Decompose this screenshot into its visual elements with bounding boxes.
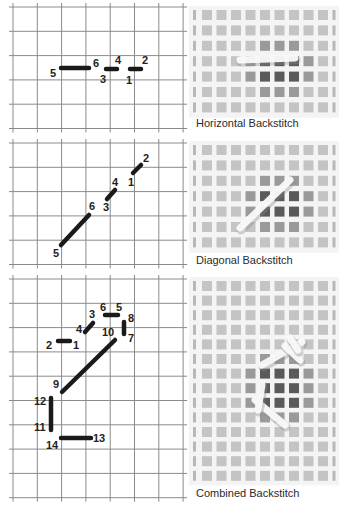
stitch-number: 13 (93, 432, 105, 444)
panel-combined: 2143658107912111413 (9, 275, 339, 502)
panel-caption: Combined Backstitch (196, 487, 299, 499)
stitch-number: 2 (143, 152, 149, 164)
stitch-number: 5 (53, 247, 59, 259)
stitch-lines (61, 68, 141, 69)
stitch-number: 1 (126, 74, 132, 86)
stitch-number: 6 (89, 200, 95, 212)
canvas-swatch-photo (189, 141, 339, 253)
stitch-number: 5 (50, 67, 56, 79)
stitch-number: 2 (46, 339, 52, 351)
stitch-number: 4 (112, 176, 119, 188)
stitch-number: 3 (103, 201, 109, 213)
stitch-number: 4 (115, 54, 122, 66)
panel-caption: Diagonal Backstitch (196, 254, 293, 266)
stitch-number: 8 (128, 312, 134, 324)
stitch-number: 7 (128, 332, 134, 344)
stitch-number: 10 (102, 326, 114, 338)
canvas-swatch-photo (189, 6, 339, 118)
panel-horizontal: 563412 (9, 3, 339, 133)
yarn-thread (240, 58, 296, 62)
stitch-number: 5 (116, 301, 122, 313)
canvas-swatch-photo (189, 277, 339, 485)
panel-caption: Horizontal Backstitch (196, 117, 299, 129)
stitch-number: 11 (34, 421, 46, 433)
stitch-grid (9, 275, 187, 502)
stitch-grid (9, 139, 187, 269)
stitch-number: 6 (100, 301, 106, 313)
diagram-canvas: 5634122143652143658107912111413 (0, 0, 354, 510)
panel-diagonal: 214365 (9, 139, 339, 269)
stitch-number: 3 (89, 308, 95, 320)
stitch-number: 2 (142, 54, 148, 66)
stitch-number: 3 (100, 73, 106, 85)
stitch-number: 9 (53, 378, 59, 390)
stitch-number: 1 (73, 339, 79, 351)
stitch-number: 1 (128, 176, 134, 188)
stitch-number: 14 (46, 439, 59, 451)
stitch-number: 6 (93, 57, 99, 69)
stitch-number: 4 (76, 323, 83, 335)
stitch-10-9 (62, 340, 115, 392)
stitch-number: 12 (34, 395, 46, 407)
